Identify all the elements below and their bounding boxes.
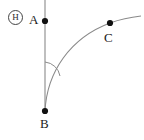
point-marker-c (107, 20, 113, 26)
point-label-c: C (104, 31, 113, 44)
badge-h-circle: H (8, 10, 23, 25)
point-label-a: A (29, 13, 38, 26)
point-marker-b (42, 108, 48, 114)
badge-h-text: H (12, 13, 19, 22)
angle-arc-at-B (45, 62, 60, 76)
geometry-figure: H A B C (0, 0, 144, 140)
point-label-b: B (40, 117, 49, 130)
curve-arc-BC (45, 16, 141, 111)
point-marker-a (42, 18, 48, 24)
